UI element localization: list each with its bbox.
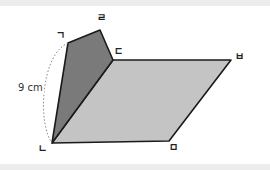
dimension-label: 9 cm <box>17 83 44 93</box>
vertex-label-giyeok: ㄱ <box>56 31 65 41</box>
vertex-label-digeut: ㄷ <box>114 47 123 57</box>
vertex-label-nieun: ㄴ <box>38 144 47 154</box>
vertex-label-bieup: ㅂ <box>235 52 244 62</box>
vertex-label-rieul: ㄹ <box>97 13 106 23</box>
vertex-label-mieum: ㅁ <box>169 143 178 153</box>
